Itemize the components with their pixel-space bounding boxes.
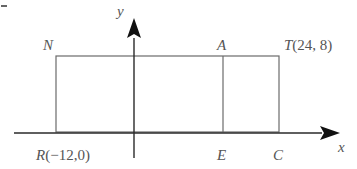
point-a-label: A: [216, 37, 227, 53]
point-t-label: T(24, 8): [284, 37, 332, 54]
point-n-label: N: [42, 37, 54, 53]
diagram-canvas: y x N A T(24, 8) R(−12,0) E C: [0, 0, 357, 169]
point-r-coords: (−12,0): [45, 147, 90, 164]
y-axis-arrow-icon: [127, 18, 141, 38]
point-t-coords: (24, 8): [292, 37, 332, 54]
y-axis-label: y: [115, 3, 124, 19]
rectangle-rntc: [56, 56, 279, 132]
point-e-label: E: [216, 147, 226, 163]
point-r-label: R(−12,0): [35, 147, 90, 164]
point-c-label: C: [273, 147, 284, 163]
x-axis-label: x: [337, 139, 345, 155]
x-axis-arrow-icon: [320, 126, 340, 140]
point-r-letter: R: [35, 147, 45, 163]
